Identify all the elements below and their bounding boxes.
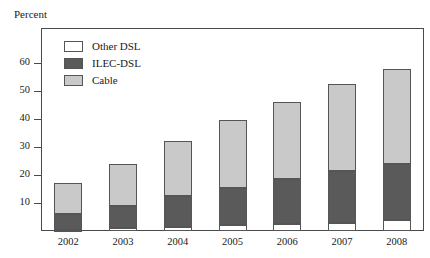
y-axis-tick-label: 40 (0, 113, 30, 123)
bar-2008 (383, 69, 411, 231)
bar-segment-cable-2007 (328, 84, 356, 171)
bar-segment-other-dsl-2004 (164, 227, 192, 231)
y-axis-tick (34, 147, 42, 148)
bar-segment-ilec-dsl-2005 (219, 188, 247, 226)
top-cut-off-text (175, 0, 305, 5)
bar-segment-other-dsl-2007 (328, 223, 356, 231)
bar-2004 (164, 141, 192, 231)
y-axis-tick-label: 10 (0, 197, 30, 207)
bar-segment-ilec-dsl-2002 (54, 214, 82, 229)
legend-swatch-ilec-dsl (64, 58, 83, 69)
bar-segment-cable-2002 (54, 183, 82, 214)
x-axis-label-2008: 2008 (367, 236, 427, 247)
legend-label-cable: Cable (92, 72, 118, 89)
x-axis-label-2006: 2006 (257, 236, 317, 247)
x-axis-label-2004: 2004 (148, 236, 208, 247)
y-axis-tick-label: 30 (0, 141, 30, 151)
bar-2003 (109, 164, 137, 231)
bar-segment-cable-2004 (164, 141, 192, 196)
bar-segment-cable-2003 (109, 164, 137, 206)
bar-segment-cable-2006 (273, 102, 301, 179)
y-axis-tick (34, 63, 42, 64)
bar-segment-ilec-dsl-2006 (273, 179, 301, 224)
bar-segment-ilec-dsl-2004 (164, 196, 192, 227)
x-axis-label-2002: 2002 (38, 236, 98, 247)
x-axis-label-2005: 2005 (203, 236, 263, 247)
bar-2002 (54, 183, 82, 231)
bar-segment-ilec-dsl-2007 (328, 171, 356, 223)
y-axis-title: Percent (14, 8, 47, 20)
legend-swatch-other-dsl (64, 41, 83, 52)
stacked-bar-chart: Percent 102030405060 2002200320042005200… (0, 0, 430, 258)
bar-segment-other-dsl-2002 (54, 230, 82, 232)
x-axis-label-2007: 2007 (312, 236, 372, 247)
legend-swatch-cable (64, 75, 83, 86)
legend-label-other-dsl: Other DSL (92, 38, 141, 55)
x-axis-label-2003: 2003 (93, 236, 153, 247)
bar-segment-ilec-dsl-2003 (109, 206, 137, 228)
y-axis-tick (34, 119, 42, 120)
y-axis-tick-label: 20 (0, 169, 30, 179)
y-axis-tick (34, 175, 42, 176)
y-axis-tick-label: 50 (0, 85, 30, 95)
y-axis-tick (34, 203, 42, 204)
bar-2007 (328, 84, 356, 231)
bar-segment-cable-2008 (383, 69, 411, 164)
bar-segment-ilec-dsl-2008 (383, 164, 411, 220)
bar-segment-other-dsl-2006 (273, 224, 301, 231)
bar-segment-other-dsl-2005 (219, 225, 247, 231)
bar-segment-other-dsl-2008 (383, 220, 411, 231)
bar-2006 (273, 102, 301, 231)
bar-segment-other-dsl-2003 (109, 228, 137, 231)
bar-segment-cable-2005 (219, 120, 247, 187)
y-axis-tick-label: 60 (0, 57, 30, 67)
bar-2005 (219, 120, 247, 231)
y-axis-tick (34, 91, 42, 92)
legend-label-ilec-dsl: ILEC-DSL (92, 55, 141, 72)
